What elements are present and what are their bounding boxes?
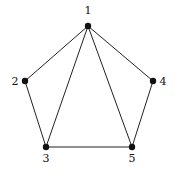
edge-2-3 — [25, 81, 46, 147]
node-label-3: 3 — [43, 152, 50, 165]
node-3 — [43, 144, 49, 150]
node-5 — [129, 144, 135, 150]
node-1 — [85, 23, 91, 29]
node-label-4: 4 — [160, 75, 167, 88]
edges-group — [25, 26, 153, 147]
node-4 — [150, 78, 156, 84]
node-label-1: 1 — [85, 4, 92, 17]
node-2 — [22, 78, 28, 84]
nodes-group — [22, 23, 156, 150]
node-label-2: 2 — [12, 75, 19, 88]
node-label-5: 5 — [129, 152, 136, 165]
graph-diagram: 1 2 3 4 5 — [0, 0, 175, 175]
edge-4-5 — [132, 81, 153, 147]
